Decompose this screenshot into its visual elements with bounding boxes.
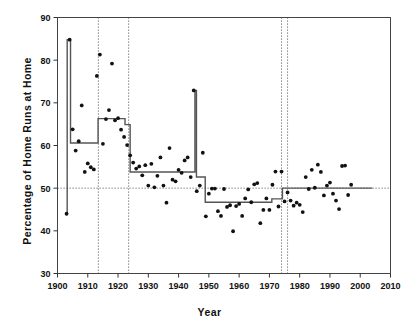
data-point	[325, 184, 329, 188]
data-point	[131, 161, 135, 165]
data-point	[313, 186, 317, 190]
x-tick-label: 1920	[108, 281, 128, 291]
chart-canvas: 3040506070809019001910192019301940195019…	[0, 0, 419, 332]
data-point	[298, 203, 302, 207]
data-point	[183, 159, 187, 163]
data-point	[280, 170, 284, 174]
data-point	[119, 128, 123, 132]
x-tick-label: 1950	[199, 281, 219, 291]
data-point	[128, 153, 132, 157]
y-tick-label: 50	[40, 184, 50, 194]
data-point	[334, 199, 338, 203]
x-tick-label: 1990	[320, 281, 340, 291]
data-point	[322, 194, 326, 198]
data-point	[177, 168, 181, 172]
x-tick-label: 1940	[169, 281, 189, 291]
y-tick-label: 70	[40, 98, 50, 108]
data-point	[286, 191, 290, 195]
data-point	[283, 199, 287, 203]
data-point	[249, 200, 253, 204]
data-point	[246, 188, 250, 192]
data-point	[146, 184, 150, 188]
data-point	[292, 204, 296, 208]
y-tick-label: 30	[40, 269, 50, 279]
x-tick-label: 1900	[47, 281, 67, 291]
data-point	[92, 167, 96, 171]
data-point	[268, 208, 272, 212]
data-point	[125, 143, 129, 147]
data-point	[143, 163, 147, 167]
data-point	[213, 187, 217, 191]
data-point	[107, 108, 111, 112]
data-point	[98, 53, 102, 57]
data-point	[192, 89, 196, 93]
data-point	[349, 183, 353, 187]
data-point	[289, 199, 293, 203]
data-point	[237, 202, 241, 206]
data-point	[207, 192, 211, 196]
data-point	[255, 181, 259, 185]
data-point	[65, 212, 69, 216]
data-point	[110, 62, 114, 66]
data-point	[307, 187, 311, 191]
data-point	[68, 38, 72, 42]
data-point	[228, 203, 232, 207]
x-tick-label: 1930	[138, 281, 158, 291]
x-tick-label: 1910	[78, 281, 98, 291]
data-point	[165, 201, 169, 205]
data-point	[316, 163, 320, 167]
data-point	[231, 229, 235, 233]
y-tick-label: 40	[40, 226, 50, 236]
data-point	[189, 175, 193, 179]
data-point	[104, 117, 108, 121]
data-point	[258, 221, 262, 225]
data-point	[83, 170, 87, 174]
x-tick-label: 2010	[380, 281, 400, 291]
data-point	[301, 210, 305, 214]
data-point	[71, 127, 75, 131]
data-point	[337, 207, 341, 211]
data-point	[304, 175, 308, 179]
x-tick-label: 2000	[350, 281, 370, 291]
data-point	[116, 116, 120, 120]
data-point	[101, 142, 105, 146]
y-tick-label: 60	[40, 141, 50, 151]
data-point	[343, 164, 347, 168]
data-point	[80, 103, 84, 107]
data-point	[264, 197, 268, 201]
x-tick-label: 1960	[229, 281, 249, 291]
data-point	[277, 205, 281, 209]
x-tick-label: 1970	[259, 281, 279, 291]
data-point	[195, 189, 199, 193]
data-point	[319, 170, 323, 174]
data-point	[156, 174, 160, 178]
data-point	[198, 184, 202, 188]
y-tick-label: 90	[40, 13, 50, 23]
data-point	[162, 184, 166, 188]
x-axis-title: Year	[0, 306, 419, 318]
data-point	[346, 193, 350, 197]
data-point	[261, 208, 265, 212]
data-point	[159, 156, 163, 160]
data-point	[222, 187, 226, 191]
data-point	[310, 168, 314, 172]
y-tick-label: 80	[40, 56, 50, 66]
data-point	[122, 135, 126, 139]
data-point	[271, 183, 275, 187]
data-point	[201, 151, 205, 155]
data-point	[243, 197, 247, 201]
data-point	[331, 192, 335, 196]
data-point	[74, 149, 78, 153]
data-point	[140, 173, 144, 177]
data-point	[174, 179, 178, 183]
data-point	[86, 162, 90, 166]
data-point	[137, 165, 141, 169]
data-point	[186, 156, 190, 160]
data-point	[219, 214, 223, 218]
y-axis-title: Percentage of Home Runs at Home	[21, 36, 33, 266]
x-tick-label: 1980	[290, 281, 310, 291]
data-point	[180, 171, 184, 175]
data-point	[149, 162, 153, 166]
scatter-series	[65, 38, 353, 233]
data-point	[274, 170, 278, 174]
